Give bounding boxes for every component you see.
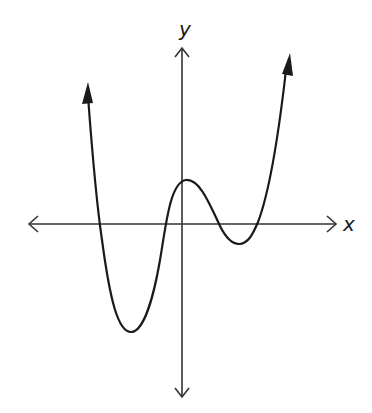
polynomial-curve — [88, 70, 286, 332]
y-axis-label: y — [178, 17, 192, 41]
curve-left-arrow-icon — [82, 82, 93, 104]
x-axis-label: x — [342, 212, 355, 236]
curve-right-arrow-icon — [282, 53, 293, 76]
y-axis — [175, 48, 189, 397]
graph-figure: x y — [0, 0, 372, 413]
